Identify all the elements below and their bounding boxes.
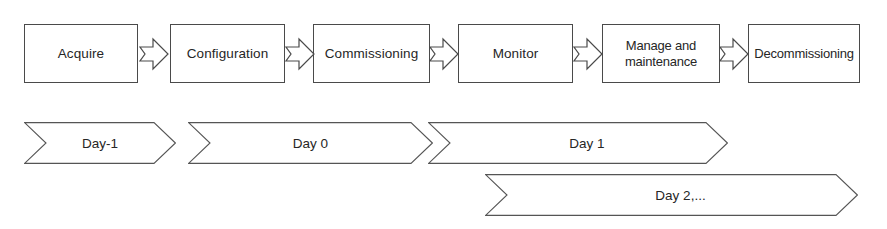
stage-label-decommissioning: Decommissioning <box>751 46 857 62</box>
phase-chevron-day-0[interactable]: Day 0 <box>188 122 433 164</box>
phase-chevron-day-2-plus[interactable]: Day 2,... <box>485 174 858 216</box>
flow-arrow-icon-monitor-to-manage <box>573 37 603 71</box>
stage-box-monitor[interactable]: Monitor <box>458 24 573 83</box>
phase-chevron-day-minus-1[interactable]: Day-1 <box>24 122 176 164</box>
stage-label-monitor: Monitor <box>490 46 542 62</box>
stage-label-acquire: Acquire <box>55 46 107 62</box>
stage-label-manage-and-maintenance: Manage and maintenance <box>622 38 700 70</box>
stage-box-configuration[interactable]: Configuration <box>170 24 285 83</box>
process-flow-diagram: AcquireConfigurationCommissioningMonitor… <box>0 0 887 229</box>
flow-arrow-icon-acquire-to-configuration <box>139 37 169 71</box>
flow-arrow-icon-commissioning-to-monitor <box>429 37 459 71</box>
flow-arrow-icon-manage-to-decommissioning <box>719 37 749 71</box>
phase-chevron-day-1[interactable]: Day 1 <box>428 122 728 164</box>
stage-box-acquire[interactable]: Acquire <box>24 24 138 83</box>
flow-arrow-icon-configuration-to-commissioning <box>285 37 315 71</box>
stage-label-commissioning: Commissioning <box>322 46 422 62</box>
stage-box-commissioning[interactable]: Commissioning <box>313 24 430 83</box>
stage-label-configuration: Configuration <box>184 46 272 62</box>
stage-box-manage-and-maintenance[interactable]: Manage and maintenance <box>602 24 720 83</box>
stage-box-decommissioning[interactable]: Decommissioning <box>748 24 860 83</box>
